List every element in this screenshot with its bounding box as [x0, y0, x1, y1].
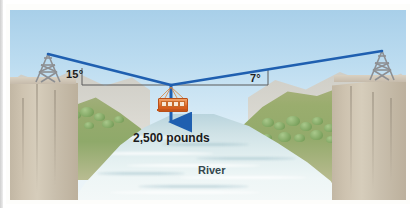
- weight-label: 2,500 pounds: [133, 131, 210, 145]
- right-support-cable: [171, 51, 382, 85]
- figure-canvas: 15° 7° 2,500 pounds River: [0, 0, 416, 208]
- river-label: River: [198, 164, 226, 176]
- gondola-underframe: [157, 109, 187, 111]
- page-edge-rule: [0, 0, 3, 208]
- angle-label-right: 7°: [250, 72, 261, 84]
- angle-label-left: 15°: [66, 68, 83, 80]
- illustration-scene: 15° 7° 2,500 pounds River: [10, 10, 406, 200]
